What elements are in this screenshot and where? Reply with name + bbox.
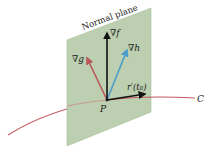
grad-h-label: ∇h [128,43,140,53]
point-p [106,99,109,102]
grad-g-label: ∇g [72,54,84,64]
normal-plane [67,8,151,146]
curve-c-label: C [197,94,204,104]
point-p-label: P [99,104,107,114]
normal-plane-diagram: Normal plane ∇f ∇h ∇g r′(t₀) P C [0,0,213,146]
tangent-label: r′(t₀) [127,82,146,92]
grad-f-label: ∇f [110,28,121,38]
